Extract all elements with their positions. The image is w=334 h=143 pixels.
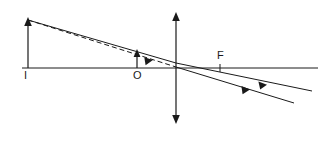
ray-diagram-figure: I O F [0,0,334,143]
refracted-ray-upper-arrowhead-icon [258,82,267,90]
label-focal-point-F: F [217,50,224,61]
refracted-ray-upper [176,63,312,91]
lens-plane-bottom-arrowhead [172,115,180,124]
virtual-ray-arrowhead-icon [144,57,153,65]
refracted-ray-lower-arrowhead-icon [241,86,250,94]
refracted-ray-lower [176,67,294,103]
virtual-ray-dashed [28,20,176,67]
image-arrow-head-icon [24,17,32,26]
lens-plane-top-arrowhead [172,12,180,21]
ray-diagram-canvas [0,0,334,143]
incident-ray-upper [28,20,176,63]
label-object-point-O: O [133,70,142,81]
label-image-point-I: I [24,70,27,81]
